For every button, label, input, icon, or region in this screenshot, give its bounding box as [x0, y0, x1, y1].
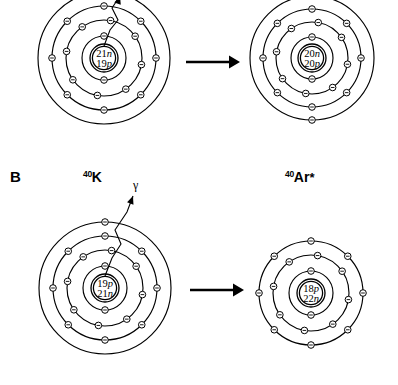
reaction-arrow-panel-a: [186, 56, 240, 69]
parent-atom-panel-b: 19p21n: [39, 219, 171, 354]
electron-icon: [302, 90, 309, 97]
electron-icon: [154, 285, 161, 292]
electron-icon: [138, 321, 145, 328]
nucleus-label-line-2: 19p: [96, 58, 112, 69]
arrow-head: [233, 284, 244, 297]
electron-icon: [138, 248, 145, 255]
electron-icon: [314, 252, 321, 259]
electron-icon: [339, 268, 346, 275]
electron-icon: [260, 55, 267, 62]
electron-icon: [123, 316, 130, 323]
electron-icon: [274, 89, 281, 96]
nucleus-label-line-1: 21n: [96, 48, 112, 59]
electron-icon: [329, 84, 336, 91]
electron-icon: [309, 76, 316, 83]
electron-icon: [65, 248, 72, 255]
nucleus-label-line-1: 18p: [303, 283, 319, 294]
electron-icon: [343, 89, 350, 96]
electron-icon: [279, 75, 286, 82]
electron-icon: [309, 6, 316, 13]
electron-icon: [102, 219, 109, 226]
mass-number-k40: 40: [83, 169, 92, 179]
electron-icon: [94, 92, 101, 99]
excited-state-asterisk: *: [309, 170, 314, 185]
electron-icon: [308, 312, 315, 319]
electron-icon: [277, 311, 284, 318]
electron-icon: [309, 117, 316, 124]
electron-icon: [344, 61, 351, 68]
electron-icon: [79, 24, 86, 31]
electron-icon: [344, 326, 351, 333]
element-symbol-k40: K: [92, 169, 102, 185]
electron-icon: [274, 20, 281, 27]
electron-icon: [343, 20, 350, 27]
nuclide-label-ar40: 40Ar*: [285, 169, 314, 185]
electron-icon: [133, 263, 140, 270]
electron-icon: [360, 290, 367, 297]
atom-diagram-canvas: 21n19p20n20p19p21n18p22n: [0, 0, 398, 385]
nucleus-label-line-1: 20n: [304, 48, 320, 59]
electron-icon: [288, 25, 295, 32]
nucleus-label-line-2: 21n: [97, 288, 113, 299]
electron-icon: [64, 278, 71, 285]
electron-icon: [50, 285, 57, 292]
electron-icon: [101, 77, 108, 84]
daughter-atom-panel-a: 20n20p: [250, 0, 374, 123]
electron-icon: [309, 34, 316, 41]
reaction-arrow-panel-b: [190, 284, 244, 297]
gamma-ray-label: γ: [133, 178, 138, 193]
electron-icon: [108, 247, 115, 254]
emission-arrowhead: [127, 196, 133, 205]
electron-icon: [102, 337, 109, 344]
electron-icon: [71, 306, 78, 313]
parent-atom-panel-a: 21n19p: [38, 0, 170, 124]
mass-number-ar40: 40: [285, 169, 294, 179]
electron-icon: [122, 86, 129, 93]
electron-icon: [286, 259, 293, 266]
electron-icon: [273, 48, 280, 55]
nucleus-label-line-2: 20p: [304, 58, 320, 69]
nucleus-label-line-1: 19p: [97, 278, 113, 289]
electron-icon: [102, 263, 109, 270]
nucleus-label-line-2: 22n: [303, 293, 319, 304]
electron-icon: [70, 76, 77, 83]
electron-icon: [65, 321, 72, 328]
arrow-head: [229, 56, 240, 69]
electron-icon: [344, 253, 351, 260]
electron-icon: [101, 3, 108, 10]
decay-diagram-figure: 21n19p20n20p19p21n18p22n B 40K 40Ar* γ: [0, 0, 398, 385]
electron-icon: [101, 107, 108, 114]
electron-icon: [358, 55, 365, 62]
electron-icon: [153, 55, 160, 62]
element-symbol-ar40: Ar: [294, 169, 310, 185]
electron-icon: [308, 268, 315, 275]
electron-icon: [309, 104, 316, 111]
electron-icon: [139, 291, 146, 298]
electron-icon: [64, 18, 71, 25]
electron-icon: [308, 342, 315, 349]
panel-b-letter: B: [10, 168, 21, 185]
nuclide-label-k40: 40K: [83, 169, 102, 185]
electron-icon: [271, 253, 278, 260]
electron-icon: [137, 91, 144, 98]
electron-icon: [138, 61, 145, 68]
electron-icon: [132, 33, 139, 40]
electron-icon: [308, 238, 315, 245]
electron-icon: [80, 254, 87, 261]
electron-icon: [95, 322, 102, 329]
electron-icon: [64, 91, 71, 98]
electron-icon: [137, 18, 144, 25]
electron-icon: [270, 283, 277, 290]
electron-icon: [315, 19, 322, 26]
electron-icon: [329, 321, 336, 328]
electron-icon: [102, 233, 109, 240]
electron-icon: [49, 55, 56, 62]
daughter-atom-panel-b: 18p22n: [256, 238, 367, 349]
electron-icon: [63, 48, 70, 55]
electron-icon: [301, 327, 308, 334]
electron-icon: [107, 17, 114, 24]
electron-icon: [338, 34, 345, 41]
electron-icon: [256, 290, 263, 297]
electron-icon: [102, 307, 109, 314]
electron-icon: [345, 296, 352, 303]
